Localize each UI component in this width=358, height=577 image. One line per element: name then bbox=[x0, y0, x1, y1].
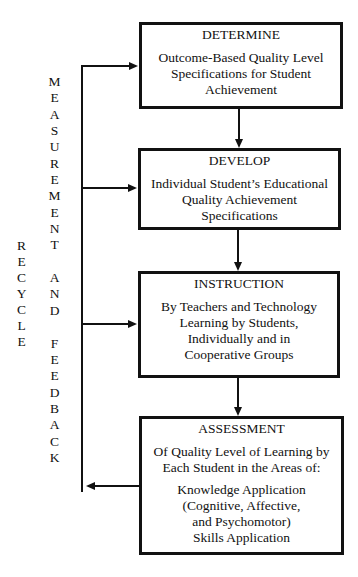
description-line: Each Student in the Areas of: bbox=[142, 460, 341, 476]
step-title: DEVELOP bbox=[141, 153, 338, 169]
arrowhead-down-icon bbox=[234, 262, 242, 271]
arrowhead-down-icon bbox=[234, 407, 242, 416]
arrowhead-right-icon bbox=[129, 62, 138, 70]
assessment-areas: Knowledge Application (Cognitive, Affect… bbox=[142, 482, 341, 546]
step-description: By Teachers and Technology Learning by S… bbox=[141, 299, 337, 363]
description-line: (Cognitive, Affective, bbox=[142, 498, 341, 514]
step-title: ASSESSMENT bbox=[142, 421, 341, 437]
arrowhead-left-icon bbox=[86, 482, 95, 490]
description-line: Quality Achievement bbox=[141, 192, 338, 208]
description-line: Achievement bbox=[142, 82, 340, 98]
step-title: INSTRUCTION bbox=[141, 276, 337, 292]
label-word-feedback: FEEDBACK bbox=[48, 336, 61, 467]
description-line: Outcome-Based Quality Level bbox=[142, 50, 340, 66]
description-line: Skills Application bbox=[142, 530, 341, 546]
measurement-and-feedback-label: MEASUREMENT AND FEEDBACK bbox=[48, 74, 61, 466]
description-line: Individual Student’s Educational bbox=[141, 176, 338, 192]
recycle-label: RECYCLE bbox=[15, 238, 28, 350]
step-box-instruction: INSTRUCTION By Teachers and Technology L… bbox=[138, 271, 340, 378]
step-box-determine: DETERMINE Outcome-Based Quality Level Sp… bbox=[139, 22, 343, 109]
step-description: Individual Student’s Educational Quality… bbox=[141, 176, 338, 224]
description-line: and Psychomotor) bbox=[142, 514, 341, 530]
description-line: Learning by Students, bbox=[141, 315, 337, 331]
arrowhead-right-icon bbox=[128, 184, 137, 192]
description-line: Individually and in bbox=[141, 331, 337, 347]
step-box-assessment: ASSESSMENT Of Quality Level of Learning … bbox=[139, 416, 344, 555]
arrowhead-right-icon bbox=[128, 320, 137, 328]
step-title: DETERMINE bbox=[142, 27, 340, 43]
step-description: Outcome-Based Quality Level Specificatio… bbox=[142, 50, 340, 98]
label-word-recycle: RECYCLE bbox=[15, 238, 28, 350]
description-line: Specifications bbox=[141, 208, 338, 224]
description-line: Cooperative Groups bbox=[141, 347, 337, 363]
description-line: By Teachers and Technology bbox=[141, 299, 337, 315]
description-line: Of Quality Level of Learning by bbox=[142, 444, 341, 460]
description-line: Specifications for Student bbox=[142, 66, 340, 82]
step-box-develop: DEVELOP Individual Student’s Educational… bbox=[138, 148, 341, 230]
label-word-measurement: MEASUREMENT bbox=[48, 74, 61, 254]
arrowhead-down-icon bbox=[235, 139, 243, 148]
description-line: Knowledge Application bbox=[142, 482, 341, 498]
step-description: Of Quality Level of Learning by Each Stu… bbox=[142, 444, 341, 476]
label-word-and: AND bbox=[48, 270, 61, 319]
